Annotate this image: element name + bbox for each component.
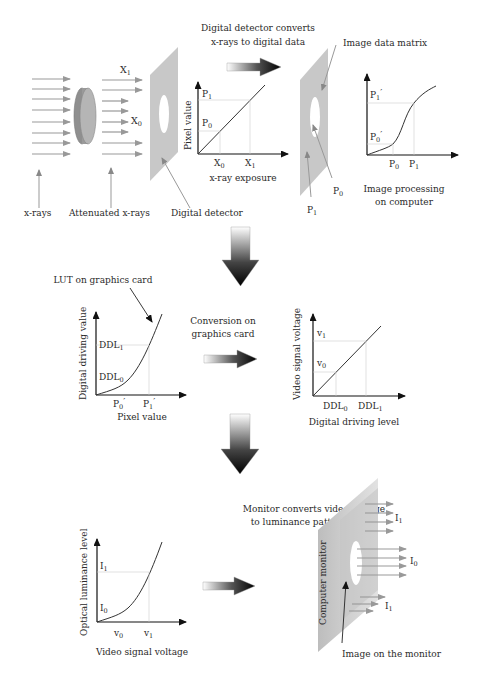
tick-i0: I0 xyxy=(100,603,108,615)
image-processing-caption-line1: Image processing xyxy=(364,184,445,194)
tick-ddl0: DDL0 xyxy=(99,372,124,384)
ylabel-optical-luminance: Optical luminance level xyxy=(79,528,89,636)
tick-p0-prime-lut: P0′ xyxy=(113,397,125,411)
diagram-canvas: X1 X0 x-rays Attenuated x-rays Digital d… xyxy=(0,0,481,678)
xlabel-digital-driving-level: Digital driving level xyxy=(309,417,399,427)
tick-ddl1: DDL1 xyxy=(99,340,124,352)
conversion-caption-line1: Conversion on xyxy=(190,316,256,326)
xlabel-pixel-value: Pixel value xyxy=(117,412,167,422)
tick-v1-x: v1 xyxy=(143,628,153,640)
detector-caption-line1: Digital detector converts xyxy=(201,23,315,33)
p0-label: P0 xyxy=(333,186,343,198)
i0-label: I0 xyxy=(410,556,418,568)
attenuated-xrays-label: Attenuated x-rays xyxy=(68,208,150,218)
i1-bottom-label: I1 xyxy=(385,601,393,613)
ylabel-digital-driving-value: Digital driving value xyxy=(78,307,88,400)
gradient-arrow-right-icon-2 xyxy=(204,350,257,368)
gradient-arrow-down-icon-1 xyxy=(222,227,259,286)
gradient-arrow-right-icon-3 xyxy=(203,577,255,595)
attenuator-disc-icon xyxy=(74,88,96,144)
image-processing-caption-line2: on computer xyxy=(375,197,434,207)
detector-pointer xyxy=(162,158,190,208)
tick-p1: P1 xyxy=(202,89,212,101)
tick-p1-prime: P1′ xyxy=(370,88,382,102)
image-data-matrix-panel xyxy=(300,48,328,196)
xray-source-rays xyxy=(32,79,70,154)
lut-label: LUT on graphics card xyxy=(54,275,153,285)
computer-monitor-label: Computer monitor xyxy=(318,540,328,625)
tick-x0: X0 xyxy=(214,158,225,170)
ylabel-video-signal-voltage: Video signal voltage xyxy=(292,308,302,401)
tick-ddl0-x: DDL0 xyxy=(323,401,348,413)
lut-chart: DDL1 DDL0 P0′ P1′ Digital driving value … xyxy=(78,307,186,422)
image-data-matrix-label: Image data matrix xyxy=(343,38,427,48)
x1-label: X1 xyxy=(120,64,131,77)
tick-p1-prime-lut: P1′ xyxy=(143,397,155,411)
xlabel-xray-exposure: x-ray exposure xyxy=(209,173,276,183)
tick-p0-prime: P0′ xyxy=(370,130,382,144)
lut-pointer xyxy=(130,288,152,322)
ylabel-pixel-value: Pixel value xyxy=(183,100,193,150)
tick-v0: v0 xyxy=(316,358,326,370)
xrays-label: x-rays xyxy=(24,208,52,218)
tick-i1: I1 xyxy=(100,561,108,573)
gradient-arrow-right-icon xyxy=(227,58,281,76)
conversion-caption-line2: graphics card xyxy=(192,329,255,339)
tick-v1: v1 xyxy=(316,328,326,340)
image-on-monitor-label: Image on the monitor xyxy=(342,649,442,659)
tick-x1: X1 xyxy=(245,158,256,170)
gradient-arrow-down-icon-2 xyxy=(221,414,259,474)
digital-detector-label: Digital detector xyxy=(171,208,244,218)
video-voltage-chart: v1 v0 DDL0 DDL1 Video signal voltage Dig… xyxy=(292,308,405,427)
image-processing-chart: P1′ P0′ P0 P1 xyxy=(367,74,458,171)
p1-label: P1 xyxy=(307,205,317,217)
i1-top-label: I1 xyxy=(395,513,403,525)
tick-p0: P0 xyxy=(202,118,212,130)
tick-p0-x: P0 xyxy=(389,159,399,171)
tick-p1-x: P1 xyxy=(409,159,419,171)
x0-label: X0 xyxy=(131,115,142,128)
tick-ddl1-x: DDL1 xyxy=(358,401,383,413)
xlabel-video-signal-voltage: Video signal voltage xyxy=(95,647,188,657)
tick-v0-x: v0 xyxy=(113,628,123,640)
pixel-value-chart: P1 P0 X0 X1 Pixel value x-ray exposure xyxy=(183,82,288,183)
luminance-chart: I1 I0 v0 v1 Optical luminance level Vide… xyxy=(79,528,188,657)
detector-caption-line2: x-rays to digital data xyxy=(211,37,306,47)
